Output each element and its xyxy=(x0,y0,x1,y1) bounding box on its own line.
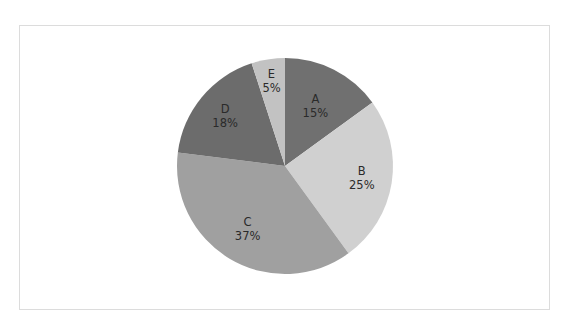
slice-category-label: D xyxy=(221,102,230,116)
slice-value-label: 5% xyxy=(262,81,280,95)
slice-category-label: B xyxy=(358,164,366,178)
slice-value-label: 15% xyxy=(303,106,329,120)
pie-chart: A15%B25%C37%D18%E5% xyxy=(0,0,567,327)
slice-value-label: 25% xyxy=(349,178,375,192)
slice-category-label: A xyxy=(311,92,319,106)
slice-category-label: C xyxy=(244,215,252,229)
slice-value-label: 18% xyxy=(212,116,238,130)
slice-category-label: E xyxy=(268,67,275,81)
slice-value-label: 37% xyxy=(235,229,261,243)
